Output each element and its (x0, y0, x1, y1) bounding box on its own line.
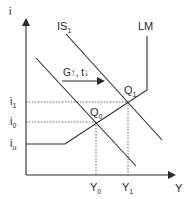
is1-label: IS1 (57, 20, 71, 34)
y-axis-label: i (9, 5, 11, 17)
lm-label: LM (138, 20, 153, 32)
is-lm-diagram: i Y G↑, t↓ IS1 LM Q1 Q0 i1 i0 iu Y0 Y1 (0, 0, 191, 199)
y1-label: Y1 (122, 181, 133, 195)
i1-label: i1 (10, 95, 16, 109)
q1-label: Q1 (124, 84, 137, 98)
x-axis-label: Y (175, 182, 183, 194)
y0-label: Y0 (90, 181, 101, 195)
q0-label: Q0 (90, 106, 103, 120)
i0-label: i0 (10, 115, 16, 129)
shift-label: G↑, t↓ (63, 67, 89, 78)
iu-label: iu (10, 137, 16, 151)
is1-curve (66, 34, 162, 140)
